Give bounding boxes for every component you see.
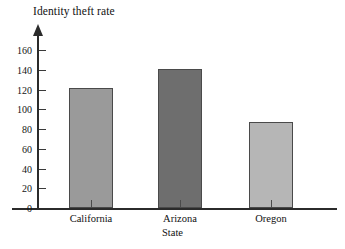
y-tick-label: 140 — [6, 64, 32, 75]
y-tick-mark — [39, 90, 46, 91]
x-axis-title: State — [0, 227, 345, 238]
y-tick-mark — [39, 188, 46, 189]
y-tick-label: 40 — [6, 163, 32, 174]
x-axis-line — [12, 208, 337, 210]
bar-california — [69, 88, 113, 208]
y-axis-line — [37, 34, 39, 209]
x-category-label-arizona: Arizona — [135, 213, 225, 224]
y-tick-mark — [39, 169, 46, 170]
x-tick-mark — [271, 200, 272, 208]
y-tick-mark — [39, 70, 46, 71]
bar-arizona — [158, 69, 202, 208]
y-tick-label: 0 — [6, 203, 32, 214]
y-tick-label: 100 — [6, 104, 32, 115]
y-tick-label: 120 — [6, 84, 32, 95]
y-tick-label: 20 — [6, 183, 32, 194]
y-tick-label: 60 — [6, 143, 32, 154]
x-tick-mark — [91, 200, 92, 208]
x-category-label-oregon: Oregon — [226, 213, 316, 224]
x-tick-mark — [180, 200, 181, 208]
x-category-label-california: California — [46, 213, 136, 224]
chart-title: Identity theft rate — [33, 5, 115, 17]
y-tick-mark — [39, 50, 46, 51]
y-tick-mark — [39, 109, 46, 110]
y-tick-mark — [39, 149, 46, 150]
y-tick-label: 160 — [6, 45, 32, 56]
bar-chart: Identity theft rate 02040608010012014016… — [0, 0, 345, 249]
y-tick-label: 80 — [6, 124, 32, 135]
bar-oregon — [249, 122, 293, 208]
y-tick-mark — [39, 129, 46, 130]
